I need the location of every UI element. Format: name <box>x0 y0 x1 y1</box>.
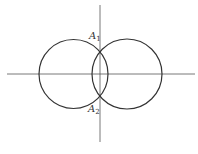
diagram-svg: A1 A2 <box>0 0 198 154</box>
point-label-a2: A2 <box>87 103 100 116</box>
diagram-canvas: A1 A2 <box>0 0 198 154</box>
point-label-a1: A1 <box>88 30 101 43</box>
